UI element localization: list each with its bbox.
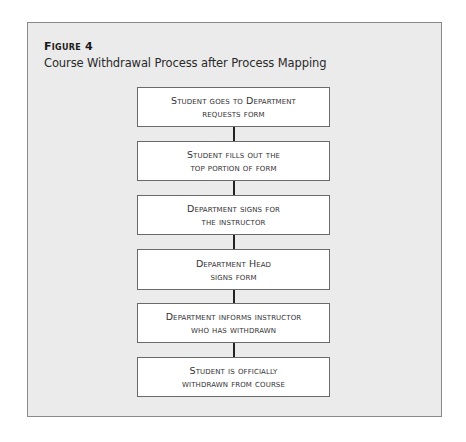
step-1-line-1: Student goes to Department: [171, 94, 296, 107]
process-step-4: Department Head signs form: [137, 249, 330, 290]
figure-label: Figure 4: [44, 40, 93, 53]
connector-line-5-6: [233, 343, 235, 357]
connector-line-3-4: [233, 235, 235, 249]
step-6-line-1: Student is officially: [190, 364, 278, 377]
step-4-line-1: Department Head: [196, 257, 271, 270]
step-5-line-1: Department informs instructor: [166, 310, 302, 323]
step-2-line-1: Student fills out the: [187, 148, 280, 161]
figure-title: Course Withdrawal Process after Process …: [44, 56, 326, 70]
step-6-line-2: withdrawn from course: [182, 377, 285, 390]
process-step-5: Department informs instructor who has wi…: [137, 303, 330, 343]
process-step-1: Student goes to Department requests form: [137, 87, 330, 127]
process-step-6: Student is officially withdrawn from cou…: [137, 357, 330, 397]
step-2-line-2: top portion of form: [190, 161, 276, 174]
step-3-line-2: the instructor: [202, 215, 266, 228]
step-1-line-2: requests form: [202, 107, 264, 120]
connector-line-1-2: [233, 127, 235, 141]
process-step-2: Student fills out the top portion of for…: [137, 141, 330, 181]
connector-line-2-3: [233, 181, 235, 195]
process-step-3: Department signs for the instructor: [137, 195, 330, 235]
step-4-line-2: signs form: [210, 270, 256, 283]
connector-line-4-5: [233, 290, 235, 304]
figure-frame: Figure 4 Course Withdrawal Process after…: [27, 22, 442, 417]
step-5-line-2: who has withdrawn: [191, 323, 276, 336]
step-3-line-1: Department signs for: [187, 202, 280, 215]
